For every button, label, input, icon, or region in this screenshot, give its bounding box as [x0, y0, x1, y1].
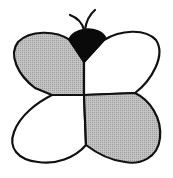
- butterfly-svg: [0, 0, 173, 178]
- wing-bottom-left: [12, 95, 86, 163]
- butterfly-figure: [0, 0, 173, 178]
- antenna-right: [85, 10, 95, 30]
- wing-bottom-right: [84, 93, 160, 163]
- antenna-left: [70, 15, 84, 30]
